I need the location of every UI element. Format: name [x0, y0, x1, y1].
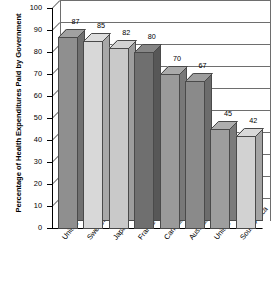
bar-front-face: [160, 74, 180, 229]
y-axis-tick-label: 30: [16, 158, 42, 166]
y-axis-tick-label: 40: [16, 136, 42, 144]
bar-front-face: [109, 48, 129, 229]
plot-area: 100908070605040302010087United Kingdom85…: [0, 0, 276, 308]
y-axis-line: [52, 8, 53, 229]
bar-front-face: [58, 37, 78, 229]
bar-value-label: 87: [62, 18, 90, 26]
bar-value-label: 70: [163, 55, 191, 63]
bar-value-label: 82: [112, 29, 140, 37]
y-axis-tick-label: 90: [16, 26, 42, 34]
bar-value-label: 42: [239, 117, 267, 125]
y-axis-tick-label: 10: [16, 202, 42, 210]
y-axis-tick-label: 80: [16, 48, 42, 56]
bar-value-label: 45: [214, 110, 242, 118]
y-axis-tick-label: 70: [16, 70, 42, 78]
bar-value-label: 80: [138, 33, 166, 41]
bar-value-label: 85: [87, 22, 115, 30]
bar-front-face: [134, 52, 154, 229]
y-axis-tick-label: 0: [16, 224, 42, 232]
bar-front-face: [185, 81, 205, 229]
bar: [236, 128, 265, 229]
bar-side-face: [255, 128, 263, 221]
bar-front-face: [236, 136, 256, 229]
y-axis-tick-label: 100: [16, 4, 42, 12]
y-axis-tick-label: 60: [16, 92, 42, 100]
y-axis-tick-label: 50: [16, 114, 42, 122]
y-axis-tick-label: 20: [16, 180, 42, 188]
gridline: [60, 0, 270, 1]
bar-value-label: 67: [189, 62, 217, 70]
bar-front-face: [210, 129, 230, 229]
bar-chart: Percentage of Health Expenditures Paid b…: [0, 0, 276, 308]
back-wall-right-edge: [270, 0, 271, 221]
bar-front-face: [83, 41, 103, 229]
